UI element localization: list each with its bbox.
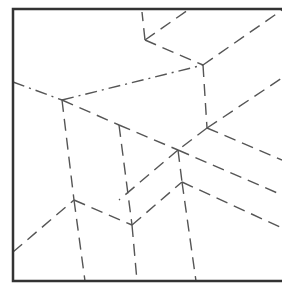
crease-lines — [13, 10, 282, 281]
crease-line — [145, 10, 188, 40]
crease-line — [13, 82, 62, 100]
crease-line — [178, 150, 182, 182]
crease-line — [62, 100, 74, 200]
crease-line — [119, 125, 132, 225]
square-border — [13, 9, 282, 281]
crease-line — [207, 128, 282, 160]
diagram-canvas — [0, 0, 282, 291]
crease-line — [178, 128, 207, 150]
crease-line — [132, 225, 137, 281]
crease-line — [178, 150, 282, 195]
crease-line — [62, 65, 203, 100]
crease-line — [62, 100, 119, 125]
crease-pattern-diagram — [0, 0, 282, 291]
crease-line — [142, 12, 145, 40]
crease-line — [74, 200, 85, 281]
crease-line — [145, 40, 203, 65]
crease-line — [132, 182, 182, 225]
crease-line — [74, 200, 132, 225]
crease-line — [13, 200, 74, 252]
crease-line — [182, 182, 196, 281]
crease-line — [207, 78, 282, 128]
crease-line — [203, 65, 207, 128]
crease-line — [119, 125, 178, 150]
crease-line — [203, 10, 282, 65]
